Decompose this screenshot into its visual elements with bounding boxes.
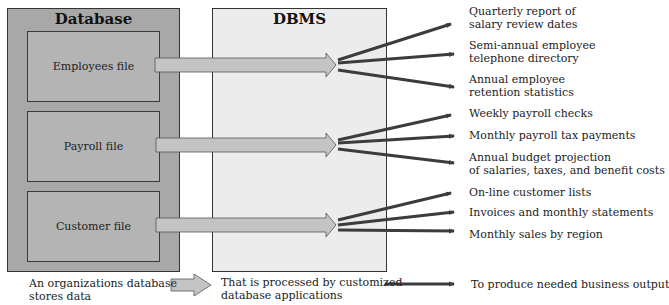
output-line: Annual budget projection (469, 151, 665, 164)
legend-line: That is processed by customized (221, 276, 402, 289)
payroll-flow-arrow (156, 133, 336, 157)
output-quarterly-report: Quarterly report of salary review dates (469, 5, 577, 31)
legend-line: To produce needed business output (471, 278, 669, 291)
employees-flow-arrow (155, 53, 336, 77)
legend-line: An organizations database (29, 277, 177, 290)
output-line: Semi-annual employee (469, 39, 595, 52)
employees-output-arrows (338, 24, 454, 87)
customer-output-arrows (338, 193, 454, 231)
output-telephone-directory: Semi-annual employee telephone directory (469, 39, 595, 65)
output-line: Annual employee (469, 73, 574, 86)
legend-line: stores data (29, 290, 177, 303)
output-sales-by-region: Monthly sales by region (469, 228, 603, 241)
output-online-customer-lists: On-line customer lists (469, 186, 591, 199)
output-annual-budget: Annual budget projection of salaries, ta… (469, 151, 665, 177)
output-line: Quarterly report of (469, 5, 577, 18)
customer-flow-arrow (156, 213, 336, 237)
output-line: Invoices and monthly statements (469, 206, 653, 219)
output-invoices: Invoices and monthly statements (469, 206, 653, 219)
output-line: retention statistics (469, 86, 574, 99)
legend-line: database applications (221, 289, 402, 302)
output-monthly-tax: Monthly payroll tax payments (469, 129, 636, 142)
legend-output: To produce needed business output (471, 278, 669, 291)
output-line: Monthly payroll tax payments (469, 129, 636, 142)
output-line: salary review dates (469, 18, 577, 31)
output-line: telephone directory (469, 52, 595, 65)
legend-stores-data: An organizations database stores data (29, 277, 177, 303)
output-weekly-payroll: Weekly payroll checks (469, 107, 593, 120)
payroll-output-arrows (338, 115, 454, 163)
legend-processed: That is processed by customized database… (221, 276, 402, 302)
output-line: Weekly payroll checks (469, 107, 593, 120)
output-line: On-line customer lists (469, 186, 591, 199)
output-line: Monthly sales by region (469, 228, 603, 241)
output-line: of salaries, taxes, and benefit costs (469, 164, 665, 177)
output-retention-statistics: Annual employee retention statistics (469, 73, 574, 99)
